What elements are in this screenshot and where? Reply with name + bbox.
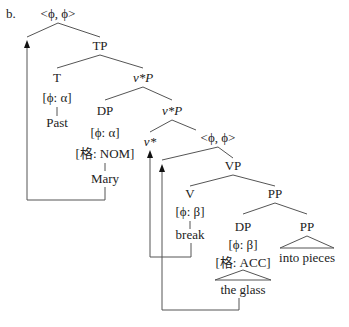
pp-upper-node: PP (268, 186, 282, 201)
v-leaf: break (176, 227, 205, 242)
root-node: <ϕ, ϕ> (41, 6, 76, 21)
t-feature: [ϕ: α] (42, 90, 71, 105)
branch-vstarp-pair (172, 120, 196, 130)
branch-tp-vstarp (100, 55, 143, 68)
pp-lower-node: PP (300, 219, 314, 234)
arrow-up-icon (147, 150, 153, 158)
branch-tp-t (57, 55, 100, 68)
arrow-up-icon (159, 164, 165, 172)
dp-object-leaf: the glass (220, 282, 265, 297)
dp-subject-leaf: Mary (91, 171, 120, 186)
syntax-tree-diagram: b. <ϕ, ϕ> TP T [ϕ: α] Past v*P DP [ϕ: α]… (0, 0, 349, 327)
branch-root-left (27, 23, 58, 37)
dp-subject-node: DP (97, 103, 114, 118)
branch-vstarp-vstarp (143, 87, 172, 100)
branch-vp-pp (233, 175, 275, 186)
pp-lower-triangle (280, 236, 334, 248)
vstarp-upper-node: v*P (133, 70, 153, 85)
branch-root-tp (58, 23, 100, 37)
v-feature: [ϕ: β] (176, 204, 205, 219)
t-leaf: Past (46, 115, 68, 130)
dp-object-case: [格: ACC] (215, 255, 270, 270)
branch-vstarp-vstar (150, 120, 172, 132)
example-label: b. (6, 6, 16, 21)
dp-subject-feature: [ϕ: α] (90, 125, 119, 140)
branch-pair-vp (218, 147, 233, 158)
arrow-up-icon (24, 40, 30, 48)
branch-vp-v (190, 175, 233, 186)
branch-pp-dp (243, 203, 275, 214)
dp-object-triangle (215, 270, 271, 280)
tp-node: TP (92, 38, 107, 53)
vp-node: VP (225, 158, 242, 173)
dp-subject-case: [格: NOM] (76, 146, 135, 161)
branch-vstarp-dp (105, 87, 143, 100)
inner-pair-node: <ϕ, ϕ> (201, 130, 236, 145)
vstarp-lower-node: v*P (162, 103, 182, 118)
pp-lower-leaf: into pieces (279, 250, 335, 265)
branch-pair-left (162, 147, 218, 160)
dp-object-feature: [ϕ: β] (229, 237, 258, 252)
branch-pp-pp (275, 203, 307, 214)
v-node: V (185, 186, 195, 201)
t-node: T (53, 70, 61, 85)
vstar-node: v* (144, 134, 157, 149)
dp-object-node: DP (235, 219, 252, 234)
